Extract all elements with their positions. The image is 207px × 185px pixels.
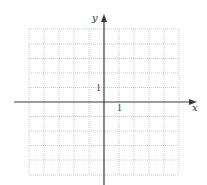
y-axis (101, 14, 107, 185)
y-unit-label: 1 (96, 82, 101, 93)
x-unit-label: 1 (117, 102, 122, 113)
y-axis-arrow-icon (101, 14, 107, 22)
x-axis-label: x (192, 102, 198, 113)
coordinate-plane: y x 1 1 (0, 0, 207, 185)
y-axis-label: y (91, 12, 98, 23)
x-axis (14, 99, 197, 105)
